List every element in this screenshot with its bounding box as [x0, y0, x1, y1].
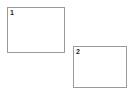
region-box-1[interactable]: 1: [7, 7, 65, 53]
region-label-2: 2: [76, 48, 80, 56]
region-box-2[interactable]: 2: [73, 46, 127, 88]
region-label-1: 1: [10, 9, 14, 17]
annotation-canvas: 1 2: [0, 0, 132, 94]
